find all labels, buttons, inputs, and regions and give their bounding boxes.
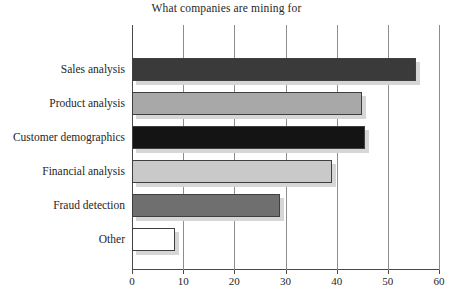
bar-row <box>132 126 370 149</box>
x-tick-label: 50 <box>368 275 408 287</box>
gridline-60 <box>439 25 440 270</box>
x-tick-60 <box>439 270 440 274</box>
x-tick-0 <box>132 270 133 274</box>
bar <box>132 92 362 115</box>
bar <box>132 160 332 183</box>
category-label: Sales analysis <box>0 58 125 81</box>
chart-title: What companies are mining for <box>0 2 453 14</box>
x-tick-20 <box>234 270 235 274</box>
bar-row <box>132 194 285 217</box>
bar-chart-figure: What companies are mining for Sales anal… <box>0 0 453 299</box>
x-tick-30 <box>286 270 287 274</box>
category-label: Product analysis <box>0 92 125 115</box>
category-label: Customer demographics <box>0 126 125 149</box>
x-tick-10 <box>183 270 184 274</box>
x-tick-50 <box>388 270 389 274</box>
bar-row <box>132 228 180 251</box>
x-tick-label: 40 <box>317 275 357 287</box>
x-tick-label: 20 <box>214 275 254 287</box>
plot-area: 0102030405060 <box>132 25 439 270</box>
bar <box>132 194 280 217</box>
x-tick-label: 30 <box>266 275 306 287</box>
category-label: Financial analysis <box>0 160 125 183</box>
bar-row <box>132 58 421 81</box>
category-label: Fraud detection <box>0 194 125 217</box>
x-tick-label: 0 <box>112 275 152 287</box>
bar <box>132 228 175 251</box>
x-tick-label: 60 <box>419 275 453 287</box>
bar <box>132 126 365 149</box>
bar-row <box>132 92 367 115</box>
x-tick-40 <box>337 270 338 274</box>
bar <box>132 58 416 81</box>
x-tick-label: 10 <box>163 275 203 287</box>
bar-row <box>132 160 337 183</box>
category-label: Other <box>0 228 125 251</box>
